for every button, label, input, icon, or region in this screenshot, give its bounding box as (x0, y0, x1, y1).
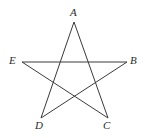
vertex-label-c: C (103, 120, 110, 131)
pentagram-figure: A B C D E (0, 0, 145, 138)
vertex-label-a: A (70, 7, 77, 18)
vertex-label-d: D (35, 120, 43, 131)
vertex-label-b: B (130, 55, 137, 66)
pentagram-star-shape (0, 0, 145, 138)
vertex-label-e: E (9, 55, 16, 66)
star-polyline (22, 22, 127, 118)
